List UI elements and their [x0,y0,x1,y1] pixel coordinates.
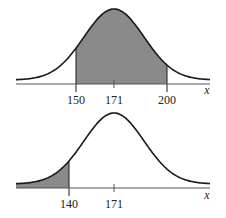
bottom-tick-label-171: 171 [105,197,123,211]
bottom-chart [16,113,210,196]
top-tick-label-171: 171 [105,93,123,107]
top-tick-label-150: 150 [67,93,85,107]
normal-curves-figure: 150 171 200 x 140 171 x [0,0,226,218]
bottom-x-axis-label: x [203,188,210,202]
normal-curve [16,113,210,184]
top-x-axis-label: x [203,83,210,97]
top-chart [16,9,210,92]
top-tick-label-200: 200 [158,93,176,107]
shaded-region [76,9,167,84]
bottom-tick-label-140: 140 [60,197,78,211]
